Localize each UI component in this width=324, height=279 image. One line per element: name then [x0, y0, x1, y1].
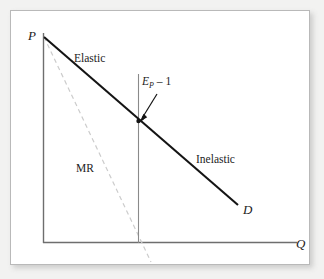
unit-elasticity-symbol: E [142, 75, 149, 87]
demand-curve-label: D [243, 203, 252, 216]
quantity-axis-label: Q [296, 237, 305, 250]
marginal-revenue-label: MR [76, 163, 94, 175]
unit-elasticity-value: – 1 [154, 75, 171, 87]
price-axis-label: P [28, 29, 36, 42]
unit-elasticity-subscript: P [149, 81, 154, 90]
figure-plate [10, 10, 310, 265]
inelastic-region-label: Inelastic [196, 154, 235, 166]
elastic-region-label: Elastic [74, 53, 105, 65]
figure-root: P Q D Elastic Inelastic MR EP – 1 [0, 0, 324, 279]
unit-elasticity-label: EP – 1 [142, 76, 171, 88]
